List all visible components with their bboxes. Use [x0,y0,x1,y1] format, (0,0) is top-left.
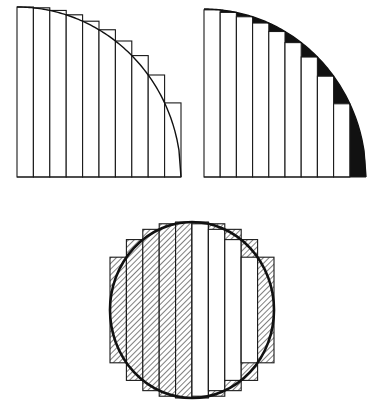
strip-rect [317,76,333,177]
strip-rect [204,10,220,177]
strip-rect [99,30,115,177]
strip-rect [220,12,236,177]
inscribed-strip [192,224,208,396]
inscribed-strip [225,240,241,381]
hatched-strip [159,224,175,396]
strip-rect [115,41,131,177]
strip-rect [50,10,66,177]
strip-rect [301,57,317,177]
inscribed-strip [241,257,257,363]
strip-rect [253,23,269,177]
hatched-strip [176,222,192,398]
inscribed-strip [208,229,224,390]
inscribed-quarter-circle [204,9,366,177]
strip-rect [334,104,350,177]
strip-rect [269,32,285,177]
strip-rect [132,56,148,177]
strip-rect [83,21,99,177]
strip-rect [17,7,33,177]
strip-rect [66,15,82,177]
strip-rect [236,17,252,177]
hatched-strip [143,229,159,390]
strip-rect [285,43,301,177]
hatched-circle-strips [110,222,274,398]
strip-rect [33,8,49,177]
diagram-canvas [0,0,378,408]
gap-region [350,104,366,177]
strip-rect [165,103,181,177]
circumscribed-quarter-circle [17,7,181,177]
strip-rect [148,75,164,177]
hatched-strip [126,240,142,381]
